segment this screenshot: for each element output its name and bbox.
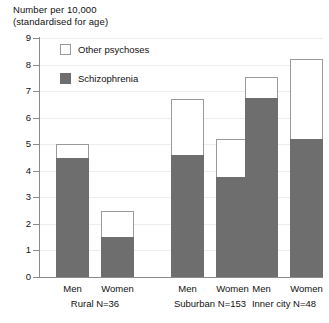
legend-item-other-psychoses: Other psychoses: [60, 44, 149, 55]
x-axis-line: [39, 277, 323, 278]
y-tick-label-wrap: 3: [0, 192, 31, 202]
legend-swatch-schizophrenia-icon: [60, 73, 71, 84]
legend-label-schizophrenia: Schizophrenia: [78, 74, 138, 84]
y-tick-label: 2: [9, 219, 31, 229]
y-tick-label-wrap: 6: [0, 113, 31, 123]
y-tick-label-wrap: 5: [0, 139, 31, 149]
y-tick-mark: [33, 38, 39, 39]
y-tick-label-wrap: 1: [0, 245, 31, 255]
bar-segment-schizophrenia: [101, 237, 134, 277]
chart-title-line-1: Number per 10,000: [13, 4, 97, 15]
x-axis-group-label: Rural N=36: [35, 299, 155, 309]
legend-label-other-psychoses: Other psychoses: [78, 45, 149, 55]
y-tick-label: 5: [9, 139, 31, 149]
y-tick-label-wrap: 0: [0, 272, 31, 282]
bar-stack: [101, 211, 134, 277]
y-tick-label: 3: [9, 192, 31, 202]
y-tick-label: 4: [9, 166, 31, 176]
x-axis-category-label: Women: [278, 284, 329, 294]
y-tick-label-wrap: 4: [0, 166, 31, 176]
y-tick-mark: [33, 118, 39, 119]
legend-item-schizophrenia: Schizophrenia: [60, 73, 138, 84]
y-tick-label: 9: [9, 33, 31, 43]
x-axis-group-label: Inner city N=48: [224, 299, 329, 309]
y-tick-label-wrap: 9: [0, 33, 31, 43]
bar-stack: [245, 77, 278, 277]
psychosis-incidence-bar-chart: Number per 10,000 (standardised for age)…: [0, 0, 329, 323]
y-tick-label: 8: [9, 60, 31, 70]
y-tick-mark: [33, 144, 39, 145]
y-tick-label: 1: [9, 245, 31, 255]
bar-stack: [290, 59, 323, 277]
y-tick-mark: [33, 171, 39, 172]
bar-stack: [171, 99, 204, 277]
x-axis-category-label: Women: [89, 284, 146, 294]
y-tick-mark: [33, 197, 39, 198]
y-tick-label-wrap: 2: [0, 219, 31, 229]
bar-segment-schizophrenia: [290, 139, 323, 277]
bar-stack: [56, 144, 89, 277]
y-tick-mark: [33, 250, 39, 251]
legend-swatch-other-psychoses-icon: [60, 44, 71, 55]
chart-title-line-2: (standardised for age): [13, 16, 108, 27]
y-tick-label: 7: [9, 86, 31, 96]
bar-segment-schizophrenia: [171, 155, 204, 277]
y-tick-label: 6: [9, 113, 31, 123]
chart-title: Number per 10,000 (standardised for age): [13, 4, 108, 27]
y-tick-mark: [33, 91, 39, 92]
bar-segment-schizophrenia: [56, 158, 89, 278]
y-tick-label-wrap: 8: [0, 60, 31, 70]
y-tick-mark: [33, 277, 39, 278]
y-tick-mark: [33, 65, 39, 66]
y-tick-mark: [33, 224, 39, 225]
y-tick-label-wrap: 7: [0, 86, 31, 96]
y-tick-label: 0: [9, 272, 31, 282]
bar-segment-schizophrenia: [245, 98, 278, 277]
